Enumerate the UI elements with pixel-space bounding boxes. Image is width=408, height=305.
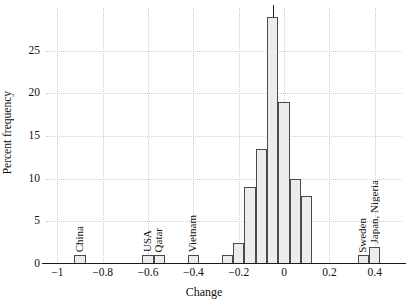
- x-axis-tick-label: 0.4: [368, 267, 382, 279]
- gridline-vertical: [57, 8, 58, 264]
- x-axis-tick-label: 0.2: [322, 267, 336, 279]
- gridline-vertical: [239, 8, 240, 264]
- gridline-horizontal: [46, 93, 402, 94]
- x-axis-tick-label: −0.2: [228, 267, 249, 279]
- max-bar-tick-mark: [273, 5, 274, 17]
- bar-annotation-sweden: Sweden: [357, 218, 368, 253]
- histogram-bar: [290, 179, 301, 264]
- histogram-bar: [256, 149, 267, 264]
- x-axis-line: [42, 263, 406, 264]
- y-axis-tick-label: 10: [2, 173, 40, 185]
- x-axis-tick-label: −0.8: [92, 267, 113, 279]
- y-axis-tick-label: 20: [2, 87, 40, 99]
- histogram-chart: Percent frequency 0510152025 ChinaUSAQat…: [0, 0, 408, 305]
- histogram-bar: [301, 196, 312, 264]
- histogram-bar: [267, 17, 278, 264]
- histogram-bar: [369, 247, 380, 264]
- bar-annotation-japan-nigeria: Japan, Nigeria: [369, 180, 380, 244]
- y-axis-tick-label: 5: [2, 215, 40, 227]
- gridline-horizontal: [46, 221, 402, 222]
- histogram-bar: [278, 102, 289, 264]
- gridline-horizontal: [46, 51, 402, 52]
- bar-annotation-china: China: [74, 226, 85, 252]
- y-axis-tick-labels: 0510152025: [0, 0, 40, 305]
- bar-annotation-qatar: Qatar: [153, 228, 164, 252]
- gridline-horizontal: [46, 136, 402, 137]
- y-axis-tick-label: 25: [2, 45, 40, 57]
- gridline-horizontal: [46, 179, 402, 180]
- histogram-bar: [233, 243, 244, 264]
- gridline-vertical: [148, 8, 149, 264]
- x-axis-tick-label: −0.4: [183, 267, 204, 279]
- histogram-bar: [244, 187, 255, 264]
- x-axis-tick-label: −1: [51, 267, 63, 279]
- gridline-vertical: [103, 8, 104, 264]
- gridline-vertical: [329, 8, 330, 264]
- plot-area: ChinaUSAQatarVietnamSwedenJapan, Nigeria: [46, 8, 402, 264]
- y-axis-tick-label: 15: [2, 130, 40, 142]
- x-axis-tick-label: −0.6: [138, 267, 159, 279]
- x-axis-title: Change: [0, 285, 408, 300]
- x-axis-tick-label: 0: [281, 267, 287, 279]
- bar-annotation-vietnam: Vietnam: [187, 215, 198, 252]
- y-axis-tick-label: 0: [2, 258, 40, 270]
